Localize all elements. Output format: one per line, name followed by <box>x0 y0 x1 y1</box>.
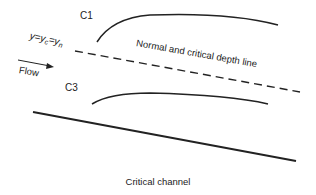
channel-bed-line <box>33 112 296 161</box>
c3-profile-curve <box>92 93 268 104</box>
flow-arrow-head <box>46 63 54 69</box>
flow-label: Flow <box>18 64 40 78</box>
diagram-canvas: C1 C3 y=yc=yn Flow Normal and critical d… <box>0 0 316 195</box>
depth-line-label: Normal and critical depth line <box>135 37 258 69</box>
depth-equation-label: y=yc=yn <box>28 30 65 49</box>
c1-profile-curve <box>97 14 278 42</box>
diagram-svg: C1 C3 y=yc=yn Flow Normal and critical d… <box>0 0 316 195</box>
diagram-title: Critical channel <box>126 176 191 187</box>
c3-label: C3 <box>65 82 78 93</box>
svg-text:y=yc=yn: y=yc=yn <box>28 30 65 49</box>
c1-label: C1 <box>80 10 93 21</box>
normal-critical-depth-line <box>75 51 300 92</box>
